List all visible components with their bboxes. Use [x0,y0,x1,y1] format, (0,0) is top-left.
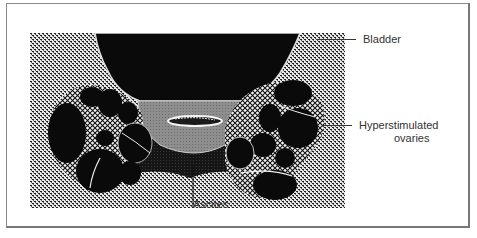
ovarian-hyperstimulation-diagram [30,33,345,208]
cutoff-caption-fragment: · · · · · · · [410,233,472,238]
ovaries-label-line2: ovaries [394,132,429,144]
ovaries-label-line1: Hyperstimulated [359,119,438,131]
ascites-label: Ascites [193,198,228,210]
endometrium [168,116,222,126]
bladder-leader-line [316,39,356,40]
ovaries-leader-line [322,125,352,126]
bladder-label: Bladder [363,33,401,45]
